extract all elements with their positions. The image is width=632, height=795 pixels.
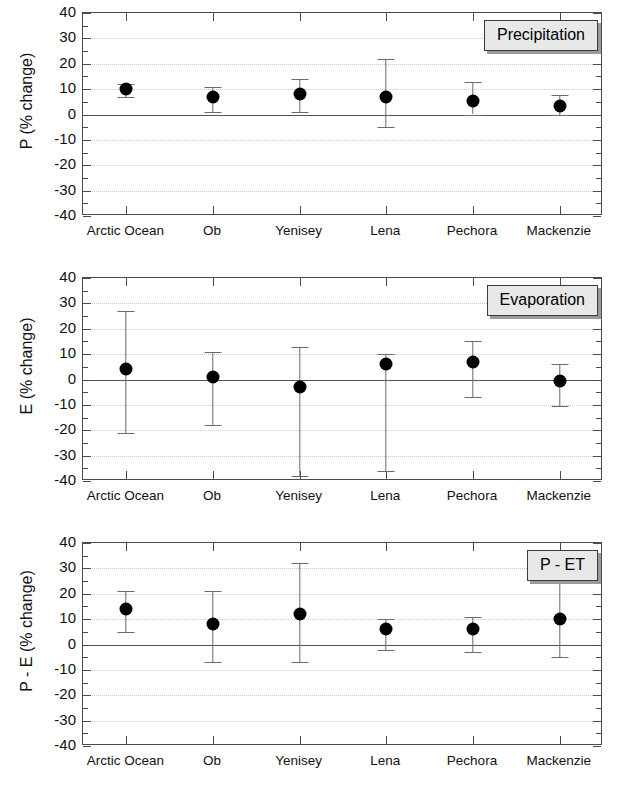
y-tick-major-20 (83, 329, 91, 330)
gridline--20 (83, 695, 601, 696)
x-tick-label-5: Mackenzie (526, 753, 591, 768)
y-tick-major--20 (83, 165, 91, 166)
errorbar-cap-lower (378, 471, 395, 472)
y-tick-minor-right--25 (596, 443, 601, 444)
y-tick-label: -20 (34, 686, 76, 701)
data-marker (380, 90, 393, 103)
x-tick-top-0 (126, 278, 127, 286)
errorbar-cap-upper (118, 311, 135, 312)
y-tick-label: 0 (34, 636, 76, 651)
data-marker (207, 90, 220, 103)
y-tick-minor--15 (83, 683, 88, 684)
gridline--30 (83, 191, 601, 192)
y-tick-label: 0 (34, 371, 76, 386)
y-tick-minor-5 (83, 102, 88, 103)
errorbar-cap-lower (378, 127, 395, 128)
x-tick-bottom-1 (213, 206, 214, 214)
x-tick-label-1: Ob (203, 223, 221, 238)
y-tick-label: -30 (34, 182, 76, 197)
x-tick-top-4 (473, 278, 474, 286)
y-tick-major--30 (83, 191, 91, 192)
y-tick-minor-35 (83, 291, 88, 292)
y-tick-minor--25 (83, 443, 88, 444)
errorbar-cap-lower (291, 476, 308, 477)
data-marker (380, 358, 393, 371)
y-tick-label: 40 (34, 4, 76, 19)
y-tick-major-10 (83, 619, 91, 620)
y-tick-major-right-40 (593, 543, 601, 544)
y-tick-major-right--10 (593, 140, 601, 141)
x-tick-bottom-4 (473, 471, 474, 479)
errorbar-stem (212, 352, 213, 426)
x-tick-bottom-5 (560, 736, 561, 744)
data-marker (293, 608, 306, 621)
y-tick-minor-right--15 (596, 683, 601, 684)
errorbar-cap-lower (465, 652, 482, 653)
data-marker (467, 355, 480, 368)
y-tick-minor-right-15 (596, 341, 601, 342)
errorbar-cap-lower (551, 115, 568, 116)
x-tick-bottom-4 (473, 736, 474, 744)
gridline-20 (83, 64, 601, 65)
data-marker (120, 602, 133, 615)
y-tick-major--10 (83, 670, 91, 671)
x-tick-label-2: Yenisey (275, 223, 322, 238)
y-tick-major-10 (83, 354, 91, 355)
x-tick-label-4: Pechora (447, 753, 497, 768)
y-tick-major--10 (83, 140, 91, 141)
y-tick-major-right--10 (593, 405, 601, 406)
y-tick-major-right-40 (593, 13, 601, 14)
errorbar-cap-lower (205, 112, 222, 113)
x-tick-top-1 (213, 278, 214, 286)
errorbar-cap-upper (551, 364, 568, 365)
gridline-10 (83, 354, 601, 355)
y-tick-minor--25 (83, 708, 88, 709)
errorbar-cap-lower (378, 650, 395, 651)
y-tick-minor-35 (83, 556, 88, 557)
y-tick-major--40 (83, 481, 91, 482)
x-tick-bottom-2 (300, 206, 301, 214)
y-tick-label: -40 (34, 737, 76, 752)
x-tick-top-2 (300, 13, 301, 21)
x-tick-label-1: Ob (203, 488, 221, 503)
y-tick-label: 10 (34, 610, 76, 625)
y-tick-minor-right--5 (596, 657, 601, 658)
y-tick-minor-right--35 (596, 733, 601, 734)
y-tick-major-right--40 (593, 216, 601, 217)
y-tick-minor-25 (83, 51, 88, 52)
x-tick-label-2: Yenisey (275, 753, 322, 768)
y-tick-minor-15 (83, 606, 88, 607)
errorbar-cap-lower (551, 657, 568, 658)
x-tick-bottom-2 (300, 736, 301, 744)
data-marker (293, 88, 306, 101)
gridline--30 (83, 456, 601, 457)
x-tick-top-4 (473, 543, 474, 551)
chart-panel-3: P - E (% change)403020100-10-20-30-40Arc… (0, 530, 632, 795)
y-tick-major-right--20 (593, 695, 601, 696)
x-tick-label-5: Mackenzie (526, 488, 591, 503)
x-tick-top-1 (213, 543, 214, 551)
y-tick-minor--35 (83, 468, 88, 469)
y-tick-label: 30 (34, 294, 76, 309)
errorbar-cap-lower (118, 433, 135, 434)
y-tick-label: -40 (34, 472, 76, 487)
y-tick-major--20 (83, 695, 91, 696)
x-tick-bottom-5 (560, 471, 561, 479)
y-tick-minor-15 (83, 341, 88, 342)
gridline--10 (83, 405, 601, 406)
gridline-10 (83, 619, 601, 620)
y-tick-minor-right-25 (596, 316, 601, 317)
plot-area (82, 542, 602, 745)
errorbar-cap-lower (205, 425, 222, 426)
y-tick-major-10 (83, 89, 91, 90)
data-marker (380, 623, 393, 636)
errorbar-cap-lower (118, 97, 135, 98)
x-tick-bottom-0 (126, 471, 127, 479)
y-tick-minor-right--15 (596, 153, 601, 154)
errorbar-cap-upper (205, 591, 222, 592)
errorbar-stem (386, 354, 387, 471)
y-tick-label: 40 (34, 269, 76, 284)
y-tick-label: -10 (34, 396, 76, 411)
y-tick-minor-right-5 (596, 102, 601, 103)
gridline--20 (83, 165, 601, 166)
